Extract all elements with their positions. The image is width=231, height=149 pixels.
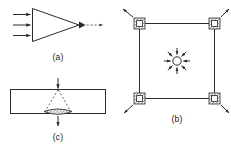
panel-a-input-arrows [13, 15, 31, 36]
corner-block-inner-bl [137, 96, 143, 102]
corner-block-bottom-right [209, 93, 229, 113]
corner-block-inner-br [212, 96, 218, 102]
corner-block-top-right [209, 9, 229, 29]
converging-wedge-triangle [33, 9, 80, 42]
focus-point-arrowhead [79, 22, 86, 29]
corner-block-inner-tr [212, 21, 218, 27]
corner-arrow-bl [124, 105, 133, 113]
corner-block-top-left [123, 9, 145, 29]
corner-arrow-br [221, 105, 229, 113]
corner-block-inner-tl [137, 21, 143, 27]
panel-c: (c) [11, 78, 106, 142]
panel-c-label: (c) [53, 132, 64, 142]
corner-block-bottom-left [124, 93, 145, 113]
figure-canvas: (a) [0, 0, 231, 149]
panel-a-label: (a) [53, 52, 64, 62]
center-radiating-source [164, 48, 190, 74]
corner-arrow-tr [221, 9, 229, 17]
panel-b-label: (b) [172, 114, 183, 124]
figure-container: (a) [0, 0, 231, 149]
panel-b: (b) [123, 9, 229, 124]
center-circle [173, 57, 181, 65]
corner-arrow-tl [123, 9, 133, 17]
panel-a: (a) [13, 9, 103, 63]
